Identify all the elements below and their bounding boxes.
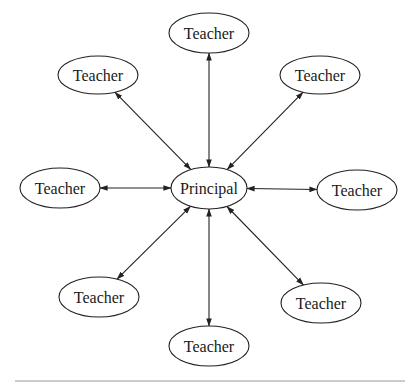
hub-spoke-diagram: PrincipalTeacherTeacherTeacherTeacherTea…	[0, 0, 419, 389]
node-teacher-lower-left: Teacher	[59, 277, 139, 317]
node-teacher-top: Teacher	[169, 13, 249, 53]
node-label: Teacher	[184, 338, 235, 355]
node-teacher-upper-left: Teacher	[58, 56, 138, 94]
node-principal: Principal	[171, 167, 247, 209]
node-label: Teacher	[73, 67, 124, 84]
edge-principal-teacher-upper-right	[227, 92, 303, 169]
edge-principal-teacher-upper-left	[115, 92, 191, 169]
node-teacher-lower-right: Teacher	[281, 283, 361, 323]
node-label: Principal	[180, 180, 238, 198]
edge-principal-teacher-lower-right	[227, 206, 303, 285]
node-label: Teacher	[74, 289, 125, 306]
node-label: Teacher	[295, 67, 346, 84]
node-label: Teacher	[35, 180, 86, 197]
node-label: Teacher	[332, 182, 383, 199]
node-teacher-upper-right: Teacher	[280, 56, 360, 94]
node-teacher-right: Teacher	[317, 170, 397, 210]
edge-principal-teacher-lower-left	[117, 206, 190, 279]
node-label: Teacher	[296, 295, 347, 312]
node-label: Teacher	[184, 25, 235, 42]
node-teacher-bottom: Teacher	[169, 326, 249, 366]
edge-principal-teacher-right	[247, 189, 317, 190]
node-teacher-left: Teacher	[20, 168, 100, 208]
